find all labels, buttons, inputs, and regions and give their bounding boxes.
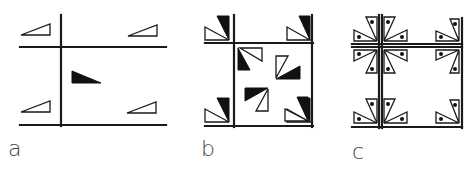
panel-b-corner-motif-tl	[205, 16, 229, 40]
panel-c-pinwheel-cluster-bottom-left	[354, 99, 407, 123]
panel-b-inner-motif-3	[245, 88, 268, 111]
open-triangle-motif	[128, 25, 157, 36]
panel-b-inner-motif-4	[285, 97, 308, 121]
panel-b-inner-motif-1	[238, 48, 262, 70]
panel-b: b	[201, 15, 313, 161]
panel-label-c: c	[352, 139, 364, 164]
panel-c-pinwheel-cluster-bottom-right	[436, 100, 459, 123]
panel-label-a: a	[8, 136, 21, 161]
panel-c: c	[352, 15, 462, 164]
lattice-symmetry-figure: a	[0, 0, 468, 169]
open-triangle-motif	[127, 102, 156, 113]
panel-b-corner-motif-bl	[205, 98, 229, 122]
panel-a-open-triangles	[21, 24, 157, 113]
open-triangle-motif	[21, 101, 50, 112]
panel-a: a	[8, 15, 166, 161]
filled-triangle-motif	[72, 71, 101, 83]
panel-b-corner-motif-tr	[287, 16, 310, 40]
open-triangle-motif	[21, 24, 50, 35]
panel-b-inner-motif-2	[276, 56, 300, 79]
panel-label-b: b	[201, 136, 215, 161]
